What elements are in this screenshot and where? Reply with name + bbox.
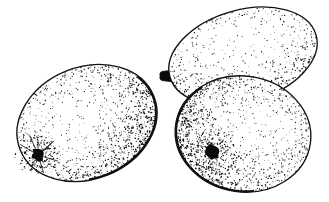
illustration-canvas: [0, 0, 329, 202]
fruit-illustration: [0, 0, 329, 202]
